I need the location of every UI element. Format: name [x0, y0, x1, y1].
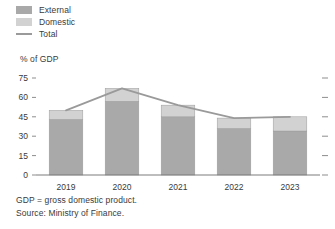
right-axis-tick-marks — [322, 78, 328, 175]
chart-legend: External Domestic Total — [16, 4, 166, 40]
bar-segment — [161, 117, 195, 175]
y-axis-tick-label: 75 — [19, 73, 29, 83]
stacked-bar-chart: 01530456075 20192020202120222023 — [0, 66, 335, 194]
x-axis-tick-label: 2019 — [57, 182, 76, 192]
bar-segment — [105, 88, 139, 101]
x-axis-tick-label: 2022 — [225, 182, 244, 192]
square-swatch-icon — [16, 18, 32, 26]
legend-label-total: Total — [39, 29, 57, 39]
bar-segment — [105, 101, 139, 175]
footnote-source: Source: Ministry of Finance. — [16, 207, 326, 220]
bar-segment — [273, 117, 307, 131]
legend-label-domestic: Domestic — [39, 17, 75, 27]
x-axis-tick-label: 2021 — [169, 182, 188, 192]
y-axis-tick-label: 45 — [19, 112, 29, 122]
legend-item-domestic: Domestic — [16, 16, 166, 27]
bar-segment — [49, 110, 83, 119]
bar-segment — [273, 131, 307, 175]
legend-item-total: Total — [16, 28, 166, 39]
x-axis-tick-labels: 20192020202120222023 — [57, 182, 300, 192]
bar-segment — [161, 105, 195, 117]
y-axis-tick-labels: 01530456075 — [19, 73, 29, 180]
chart-plot-area: 01530456075 20192020202120222023 — [0, 66, 335, 194]
y-axis-title: % of GDP — [20, 54, 59, 64]
legend-item-external: External — [16, 4, 166, 15]
square-swatch-icon — [16, 6, 32, 14]
bar-segment — [217, 118, 251, 128]
y-axis-tick-label: 60 — [19, 92, 29, 102]
y-axis-tick-label: 30 — [19, 131, 29, 141]
bar-segment — [49, 119, 83, 175]
y-axis-tick-label: 15 — [19, 151, 29, 161]
line-swatch-icon — [16, 30, 32, 38]
y-axis-tick-marks — [32, 78, 36, 175]
y-axis-tick-label: 0 — [23, 170, 28, 180]
x-axis-tick-label: 2020 — [113, 182, 132, 192]
legend-label-external: External — [39, 5, 71, 15]
footnote-gdp-definition: GDP = gross domestic product. — [16, 194, 326, 207]
chart-footnotes: GDP = gross domestic product. Source: Mi… — [16, 194, 326, 220]
bar-segment — [217, 128, 251, 175]
x-axis-tick-label: 2023 — [281, 182, 300, 192]
